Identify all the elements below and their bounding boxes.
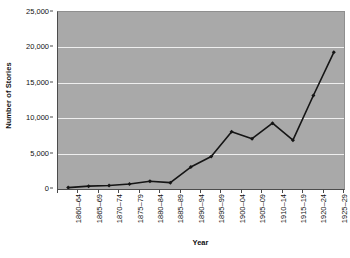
- x-axis-tick-label: 1905–09: [256, 194, 270, 236]
- x-axis-tick-mark: [343, 189, 344, 193]
- y-axis-tick-label-group: 05,00010,00015,00020,00025,000: [14, 0, 53, 190]
- data-point-marker: [87, 184, 91, 188]
- y-axis-tick-label: 20,000: [26, 42, 49, 51]
- x-axis-tick-label: 1900–04: [236, 194, 250, 236]
- data-point-marker: [107, 183, 111, 187]
- y-axis-tick-label: 0: [45, 184, 49, 193]
- y-axis-title-label: Number of Stories: [4, 62, 13, 129]
- x-axis-tick-label: 1890–94: [195, 194, 209, 236]
- x-axis-tick-label: 1895–99: [215, 194, 229, 236]
- y-axis-tick-mark: [50, 81, 53, 82]
- x-axis-tick-label: 1885–89: [174, 194, 188, 236]
- x-axis-tick-mark: [323, 189, 324, 193]
- series-path: [68, 52, 334, 187]
- y-axis-tick-label: 5,000: [30, 148, 49, 157]
- x-axis-tick-mark: [118, 189, 119, 193]
- x-axis-tick-mark: [261, 189, 262, 193]
- y-axis-tick-mark: [50, 11, 53, 12]
- x-axis-tick-label-group: 1860–641865–691870–741875–791880–841885–…: [57, 194, 344, 236]
- x-axis-tick-mark: [302, 189, 303, 193]
- series-line-number-of-stories: [58, 12, 344, 189]
- x-axis-tick-mark: [159, 189, 160, 193]
- x-axis-tick-mark: [241, 189, 242, 193]
- x-axis-tick-mark: [180, 189, 181, 193]
- plot-inner: [58, 12, 344, 189]
- line-chart-figure: Number of Stories 05,00010,00015,00020,0…: [0, 0, 350, 258]
- x-axis-tick-mark: [77, 189, 78, 193]
- x-axis-tick-label: 1925–29: [338, 194, 350, 236]
- x-axis-tick-mark: [98, 189, 99, 193]
- x-axis-tick-label: 1870–74: [113, 194, 127, 236]
- y-axis-tick-mark: [50, 46, 53, 47]
- y-axis-tick-mark: [50, 152, 53, 153]
- x-axis-tick-label: 1920–24: [317, 194, 331, 236]
- y-axis-tick-label: 15,000: [26, 77, 49, 86]
- x-axis-tick-mark: [139, 189, 140, 193]
- y-axis-tick-label: 25,000: [26, 7, 49, 16]
- x-axis-tick-label: 1915–19: [297, 194, 311, 236]
- x-axis-tick-label: 1875–79: [134, 194, 148, 236]
- data-point-marker: [128, 182, 132, 186]
- x-axis-tick-mark: [282, 189, 283, 193]
- x-axis-tick-label: 1880–84: [154, 194, 168, 236]
- x-axis-tick-mark: [57, 189, 58, 193]
- y-axis-tick-mark: [50, 117, 53, 118]
- y-axis-tick-label: 10,000: [26, 113, 49, 122]
- y-axis-tick-mark: [50, 188, 53, 189]
- x-axis-tick-mark: [220, 189, 221, 193]
- x-axis-title: Year: [57, 238, 344, 247]
- x-axis-tick-mark: [200, 189, 201, 193]
- plot-area: [57, 11, 345, 190]
- x-axis-tick-label: 1860–64: [72, 194, 86, 236]
- x-axis-tick-label: 1865–69: [93, 194, 107, 236]
- x-axis-tick-label: 1910–14: [277, 194, 291, 236]
- data-point-marker: [148, 179, 152, 183]
